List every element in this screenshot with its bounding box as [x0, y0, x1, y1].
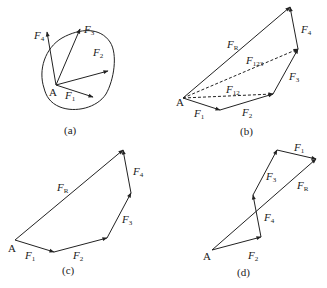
vector-d-F4	[253, 195, 261, 237]
vector-d-F3	[253, 150, 277, 195]
label-d-F3: F3	[265, 170, 277, 184]
vector-c-FR	[15, 150, 123, 240]
label-d-FR: FR	[296, 179, 309, 193]
point-label-a: A	[49, 86, 57, 98]
label-d-F1: F1	[293, 141, 305, 155]
vector-a-F3	[56, 29, 80, 85]
caption-a: (a)	[64, 124, 77, 137]
label-b-F12: F12	[225, 83, 240, 97]
caption-d: (d)	[237, 266, 250, 279]
label-c-FR: FR	[56, 181, 69, 195]
label-b-F123: F123	[245, 54, 264, 68]
label-d-F4: F4	[263, 211, 275, 225]
label-b-F4: F4	[300, 23, 312, 37]
label-b-F3: F3	[288, 70, 300, 84]
label-c-F3: F3	[121, 213, 133, 227]
vector-c-F4	[123, 150, 131, 193]
label-c-F4: F4	[132, 165, 144, 179]
label-b-FR: FR	[226, 38, 239, 52]
panel-b: A F1 F2 F3 F4 FR F12 F123 (b)	[176, 7, 312, 138]
vector-d-FR	[212, 159, 316, 250]
point-label-b: A	[176, 96, 184, 108]
force-polygon-diagram: A F1 F2 F3 F4 (a) A F1 F2 F3 F4 FR F12 F…	[0, 0, 327, 288]
vector-b-FR	[183, 7, 290, 98]
label-a-F2: F2	[92, 46, 104, 60]
point-label-d: A	[203, 250, 211, 262]
label-c-F1: F1	[24, 249, 36, 263]
panel-d: A F2 F4 F3 F1 FR (d)	[203, 141, 316, 279]
point-label-c: A	[8, 242, 16, 254]
panel-a: A F1 F2 F3 F4 (a)	[33, 23, 114, 137]
panel-c: A F1 F2 F3 F4 FR (c)	[8, 150, 144, 277]
vector-a-F2	[56, 71, 108, 85]
caption-b: (b)	[240, 125, 253, 138]
vector-c-F2	[54, 238, 107, 252]
label-c-F2: F2	[72, 249, 84, 263]
label-b-F2: F2	[241, 106, 253, 120]
label-b-F1: F1	[193, 107, 205, 121]
vector-a-F4	[47, 32, 56, 85]
caption-c: (c)	[62, 264, 75, 277]
label-a-F3: F3	[83, 23, 95, 37]
label-d-F2: F2	[247, 249, 259, 263]
label-a-F4: F4	[33, 29, 45, 43]
vector-b-F4	[290, 7, 298, 49]
vector-b-F123	[183, 49, 298, 98]
vector-b-F1	[183, 98, 220, 110]
vector-c-F1	[15, 240, 54, 252]
